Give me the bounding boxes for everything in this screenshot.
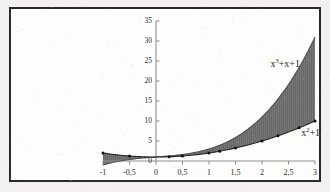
plot-frame: 05101520253035 -1-0,500,511,522,53 x3+x+… bbox=[9, 7, 321, 182]
x-tick-label: 1 bbox=[195, 169, 223, 177]
y-tick-label: 30 bbox=[130, 37, 152, 45]
y-tick-label: 5 bbox=[130, 137, 152, 145]
x-tick-label: -1 bbox=[89, 169, 117, 177]
x-tick-label: 1,5 bbox=[222, 169, 250, 177]
x-tick-label: 0,5 bbox=[169, 169, 197, 177]
y-tick-label: 15 bbox=[130, 97, 152, 105]
x-tick-label: -0,5 bbox=[116, 169, 144, 177]
curve-label-cubic-rest: +x+1 bbox=[279, 58, 300, 69]
chart-plot-area bbox=[11, 9, 323, 184]
y-tick-label: 0 bbox=[130, 157, 152, 165]
y-tick-label: 10 bbox=[130, 117, 152, 125]
x-tick-label: 0 bbox=[142, 169, 170, 177]
y-tick-label: 25 bbox=[130, 57, 152, 65]
y-tick-label: 20 bbox=[130, 77, 152, 85]
curve-label-cubic: x3+x+1 bbox=[270, 59, 300, 69]
figure-container: 05101520253035 -1-0,500,511,522,53 x3+x+… bbox=[0, 0, 330, 192]
curve-label-quadratic: x2+1 bbox=[301, 128, 320, 138]
curve-label-quadratic-rest: +1 bbox=[309, 127, 320, 138]
y-tick-label: 35 bbox=[130, 17, 152, 25]
x-tick-label: 2 bbox=[248, 169, 276, 177]
x-tick-label: 3 bbox=[301, 169, 329, 177]
x-tick-label: 2,5 bbox=[275, 169, 303, 177]
